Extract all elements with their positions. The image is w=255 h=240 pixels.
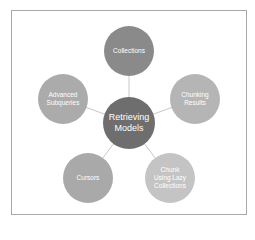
center-label: Retrieving Models — [109, 112, 150, 134]
node-label: Chunking Results — [181, 91, 208, 107]
node-retrieving-models: Retrieving Models — [103, 97, 155, 149]
node-advanced-subqueries: Advanced Subqueries — [38, 74, 88, 124]
node-label: Advanced Subqueries — [47, 91, 80, 107]
node-collections: Collections — [104, 26, 154, 76]
node-label: Cursors — [77, 174, 100, 182]
node-chunk-lazy-collections: Chunk Using Lazy Collections — [145, 153, 195, 203]
node-label: Chunk Using Lazy Collections — [154, 166, 186, 190]
node-chunking-results: Chunking Results — [170, 74, 220, 124]
node-label: Collections — [113, 47, 145, 55]
node-cursors: Cursors — [63, 153, 113, 203]
